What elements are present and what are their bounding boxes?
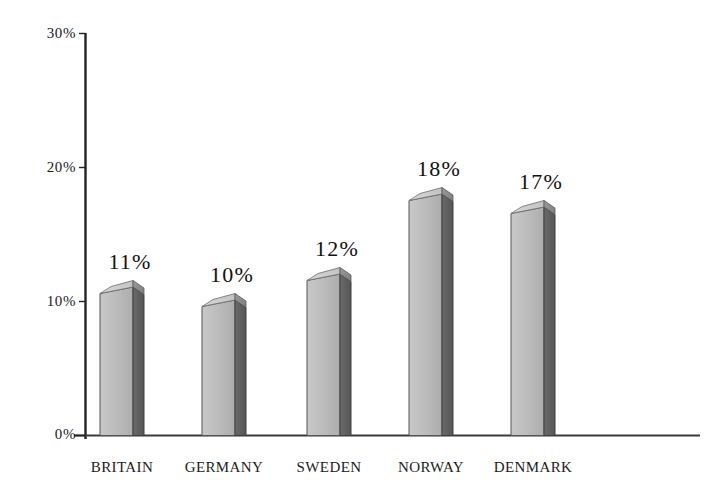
bar-value-label-germany: 10% [184,262,280,288]
bar-norway-front [409,194,442,436]
bar-denmark-front [511,207,544,436]
bar-value-label-sweden: 12% [289,236,385,262]
y-tick-label-30: 30% [20,25,76,42]
x-tick-label-germany: GERMANY [164,459,284,476]
bar-value-label-norway: 18% [391,156,487,182]
bar-denmark[interactable] [511,201,555,436]
y-tick-label-20: 20% [20,159,76,176]
bar-norway[interactable] [409,188,453,436]
bar-britain[interactable] [100,281,144,436]
bar-sweden[interactable] [307,268,351,436]
bar-chart: 30% 20% 10% 0% 11% 10% 12% 18% 17% BRITA… [0,0,726,504]
y-tick-label-10: 10% [20,293,76,310]
bar-germany[interactable] [202,294,246,436]
bar-britain-side [133,287,144,436]
bar-denmark-side [544,207,555,436]
bar-germany-front [202,300,235,436]
bar-germany-side [235,300,246,436]
bar-value-label-britain: 11% [82,249,178,275]
x-tick-label-denmark: DENMARK [473,459,593,476]
y-tick-label-0: 0% [20,426,76,443]
bar-norway-side [442,194,453,436]
bar-britain-front [100,287,133,436]
bar-sweden-side [340,274,351,436]
bar-sweden-front [307,274,340,436]
bar-value-label-denmark: 17% [493,169,589,195]
